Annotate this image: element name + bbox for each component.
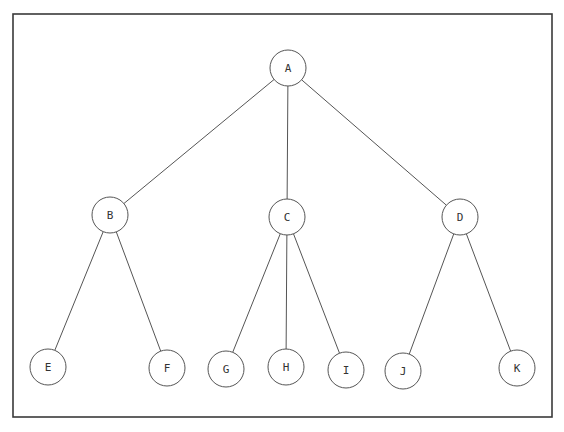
edge-a-d: [302, 80, 447, 205]
node-c: C: [269, 199, 305, 235]
node-label: J: [400, 365, 407, 378]
edge-a-c: [287, 86, 288, 199]
edge-b-f: [116, 232, 160, 351]
edge-c-g: [233, 234, 281, 353]
node-label: E: [45, 361, 52, 374]
node-d: D: [442, 199, 478, 235]
node-label: H: [283, 361, 290, 374]
tree-diagram: ABCDEFGHIJK: [0, 0, 564, 432]
edge-a-b: [124, 79, 274, 203]
edge-c-i: [293, 234, 339, 353]
node-j: J: [385, 353, 421, 389]
node-label: D: [457, 211, 464, 224]
node-k: K: [499, 350, 535, 386]
node-f: F: [149, 350, 185, 386]
node-label: C: [284, 211, 291, 224]
node-label: G: [223, 363, 230, 376]
tree-nodes: ABCDEFGHIJK: [30, 50, 535, 389]
node-label: F: [164, 362, 171, 375]
node-g: G: [208, 351, 244, 387]
node-label: B: [107, 209, 114, 222]
node-label: I: [343, 364, 350, 377]
edge-d-j: [409, 234, 454, 354]
edge-b-e: [55, 232, 103, 351]
node-i: I: [328, 352, 364, 388]
node-b: B: [92, 197, 128, 233]
node-h: H: [268, 349, 304, 385]
node-label: K: [514, 362, 521, 375]
node-e: E: [30, 349, 66, 385]
node-a: A: [270, 50, 306, 86]
edge-d-k: [466, 234, 510, 351]
node-label: A: [285, 62, 292, 75]
edge-c-h: [286, 235, 287, 349]
